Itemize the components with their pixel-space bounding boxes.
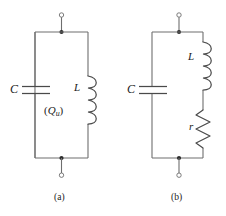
terminal-top-b-icon [177, 13, 181, 17]
inductor-coil-a-icon [88, 76, 96, 124]
terminal-top-a-icon [59, 13, 63, 17]
circuit-figure [0, 0, 226, 216]
terminal-bottom-b-icon [177, 173, 181, 177]
resistor-zigzag-b-icon [196, 110, 210, 148]
capacitor-label-b: C [127, 83, 135, 95]
panel-caption-a: (a) [54, 193, 65, 203]
panel-caption-b: (b) [171, 193, 182, 203]
resistor-label-b: r [189, 121, 193, 132]
q-annotation-symbol: Q [48, 104, 56, 116]
capacitor-label-a: C [10, 83, 18, 95]
inductor-label-a: L [74, 82, 80, 93]
unloaded-q-annotation: (Qu) [44, 105, 63, 118]
circuit-panel-b [139, 13, 211, 178]
inductor-label-b: L [188, 51, 194, 62]
q-annotation-close-paren: ) [60, 104, 64, 116]
circuit-panel-a [22, 13, 96, 178]
inductor-coil-b-icon [203, 42, 211, 90]
terminal-bottom-a-icon [59, 173, 63, 177]
